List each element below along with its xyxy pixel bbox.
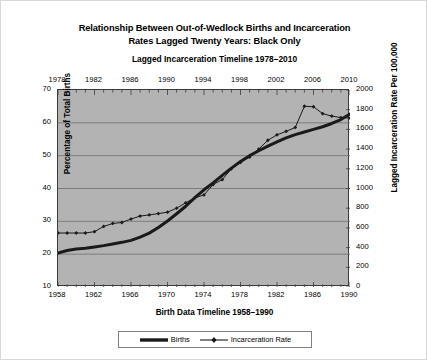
series-marker <box>293 126 297 130</box>
chart-legend: Births Incarceration Rate <box>118 331 312 348</box>
x-axis-top-tick-1986: 1986 <box>113 75 147 84</box>
y-axis-left-tick-10: 10 <box>23 281 51 290</box>
series-marker <box>83 231 87 235</box>
legend-item-births: Births <box>139 335 190 345</box>
data-series-layer <box>58 104 350 253</box>
legend-swatch-line-with-marker <box>199 335 229 345</box>
plot-area <box>57 89 349 286</box>
chart-title-line-1: Relationship Between Out-of-Wedlock Birt… <box>1 22 427 35</box>
y-axis-right-tick-0: 0 <box>356 281 390 290</box>
y-axis-right-tick-400: 400 <box>356 242 390 251</box>
series-marker <box>111 222 115 226</box>
legend-label-births: Births <box>171 335 190 344</box>
y-axis-right-tick-1800: 1800 <box>356 104 390 113</box>
x-axis-top-tick-2006: 2006 <box>296 75 330 84</box>
right-axis-title: Lagged Incarceration Rate Per 100,000 <box>390 38 399 198</box>
x-axis-bottom-tick-1982: 1982 <box>259 290 293 299</box>
x-axis-bottom-tick-1990: 1990 <box>332 290 366 299</box>
y-axis-right-tick-1000: 1000 <box>356 183 390 192</box>
y-axis-left-tick-40: 40 <box>23 183 51 192</box>
y-axis-right-tick-1600: 1600 <box>356 123 390 132</box>
series-marker <box>330 114 334 118</box>
y-axis-right-tick-600: 600 <box>356 222 390 231</box>
series-marker <box>302 104 306 108</box>
bottom-axis-title: Birth Data Timeline 1958–1990 <box>1 308 427 317</box>
series-line-incarceration-rate <box>58 106 350 233</box>
chart-title: Relationship Between Out-of-Wedlock Birt… <box>1 22 427 47</box>
legend-item-incarceration-rate: Incarceration Rate <box>199 335 291 345</box>
x-axis-top-tick-1994: 1994 <box>186 75 220 84</box>
x-axis-bottom-tick-1986: 1986 <box>296 290 330 299</box>
x-axis-top-tick-2002: 2002 <box>259 75 293 84</box>
y-axis-right-tick-200: 200 <box>356 261 390 270</box>
legend-label-incarceration-rate: Incarceration Rate <box>231 335 291 344</box>
y-axis-right-tick-800: 800 <box>356 202 390 211</box>
y-axis-right-tick-1400: 1400 <box>356 143 390 152</box>
y-axis-left-tick-30: 30 <box>23 215 51 224</box>
series-line-births <box>58 114 350 253</box>
plot-svg <box>58 90 350 287</box>
x-axis-bottom-tick-1966: 1966 <box>113 290 147 299</box>
legend-swatch-thick-line <box>139 335 169 345</box>
x-axis-bottom-tick-1974: 1974 <box>186 290 220 299</box>
series-marker <box>147 213 151 217</box>
y-axis-left-tick-60: 60 <box>23 117 51 126</box>
y-axis-left-tick-50: 50 <box>23 150 51 159</box>
series-marker <box>65 231 69 235</box>
series-marker <box>166 210 170 214</box>
chart-figure: Relationship Between Out-of-Wedlock Birt… <box>0 0 427 360</box>
y-axis-right-tick-2000: 2000 <box>356 84 390 93</box>
chart-title-line-2: Rates Lagged Twenty Years: Black Only <box>1 35 427 48</box>
x-axis-bottom-tick-1978: 1978 <box>223 290 257 299</box>
series-marker <box>58 231 60 235</box>
series-marker <box>284 129 288 133</box>
x-axis-top-tick-1990: 1990 <box>150 75 184 84</box>
y-axis-left-tick-20: 20 <box>23 248 51 257</box>
x-axis-top-tick-1982: 1982 <box>77 75 111 84</box>
series-marker <box>156 212 160 216</box>
series-marker <box>74 231 78 235</box>
top-axis-ticks <box>58 90 350 95</box>
x-axis-top-tick-2010: 2010 <box>332 75 366 84</box>
series-marker <box>348 116 350 120</box>
series-marker <box>138 214 142 218</box>
series-marker <box>129 217 133 221</box>
y-axis-right-tick-1200: 1200 <box>356 163 390 172</box>
bottom-axis-ticks <box>58 282 350 287</box>
x-axis-top-tick-1998: 1998 <box>223 75 257 84</box>
x-axis-bottom-tick-1970: 1970 <box>150 290 184 299</box>
left-axis-title: Percentage of Total Births <box>63 54 72 194</box>
x-axis-bottom-tick-1962: 1962 <box>77 290 111 299</box>
x-axis-bottom-tick-1958: 1958 <box>40 290 74 299</box>
y-axis-left-tick-70: 70 <box>23 84 51 93</box>
